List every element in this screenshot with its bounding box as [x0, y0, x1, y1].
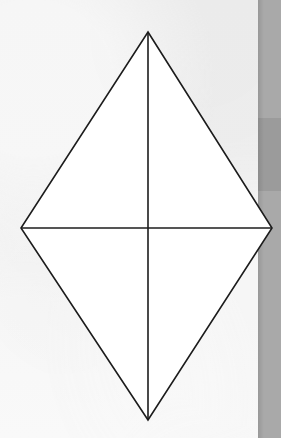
figure-canvas: Rhombus with both diagonals drawn — [0, 0, 281, 438]
rhombus-outline — [21, 32, 272, 420]
rhombus-diagram — [0, 0, 281, 438]
